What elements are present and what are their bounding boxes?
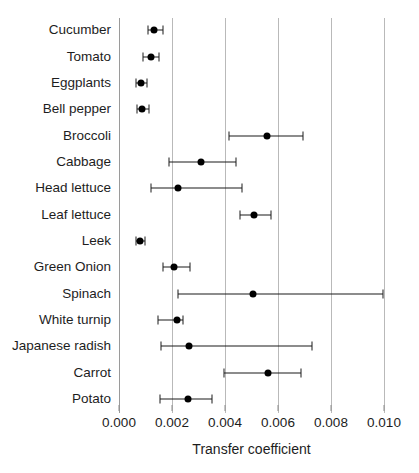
category-label: Green Onion	[34, 260, 111, 274]
data-point	[170, 264, 177, 271]
x-tick-label: 0.010	[367, 416, 401, 430]
error-bar-cap-high	[312, 342, 313, 351]
error-bar-line	[161, 346, 312, 347]
x-tick-label: 0.000	[102, 416, 136, 430]
x-axis: 0.0000.0020.0040.0060.0080.010	[119, 413, 384, 443]
error-bar-cap-high	[147, 78, 148, 87]
forest-plot-figure: CucumberTomatoEggplantsBell pepperBrocco…	[0, 0, 419, 473]
plot-area: CucumberTomatoEggplantsBell pepperBrocco…	[119, 18, 384, 413]
data-point	[250, 290, 257, 297]
error-bar-cap-high	[148, 105, 149, 114]
x-tick-mark	[278, 405, 279, 411]
category-label: Eggplants	[51, 76, 111, 90]
data-point	[250, 211, 257, 218]
data-point	[137, 79, 144, 86]
error-bar-cap-low	[223, 368, 224, 377]
category-label: Leaf lettuce	[41, 208, 111, 222]
category-label: Carrot	[73, 366, 111, 380]
data-point	[175, 185, 182, 192]
x-axis-title: Transfer coefficient	[119, 441, 384, 457]
data-point	[264, 369, 271, 376]
gridline-0.008	[331, 18, 332, 413]
data-point	[263, 132, 270, 139]
error-bar-cap-low	[143, 52, 144, 61]
error-bar-cap-low	[240, 210, 241, 219]
category-label: Japanese radish	[12, 339, 111, 353]
error-bar-cap-low	[157, 315, 158, 324]
x-tick-label: 0.008	[314, 416, 348, 430]
x-tick-label: 0.006	[261, 416, 295, 430]
error-bar-cap-low	[178, 289, 179, 298]
category-label: Cabbage	[56, 155, 111, 169]
error-bar-cap-high	[183, 315, 184, 324]
category-label: Broccoli	[63, 129, 111, 143]
category-label: Spinach	[62, 287, 111, 301]
x-tick-mark	[225, 405, 226, 411]
gridline-0.010	[384, 18, 385, 413]
error-bar-cap-low	[150, 184, 151, 193]
data-point	[198, 158, 205, 165]
category-label: Potato	[72, 392, 111, 406]
x-tick-mark	[384, 405, 385, 411]
x-tick-mark	[331, 405, 332, 411]
category-label: White turnip	[39, 313, 111, 327]
category-label: Leek	[82, 234, 111, 248]
data-point	[136, 237, 143, 244]
error-bar-cap-low	[228, 131, 229, 140]
gridline-0.002	[172, 18, 173, 413]
error-bar-cap-low	[169, 157, 170, 166]
data-point	[150, 27, 157, 34]
error-bar-cap-high	[241, 184, 242, 193]
error-bar-line	[224, 372, 301, 373]
gridline-0.006	[278, 18, 279, 413]
error-bar-cap-high	[190, 263, 191, 272]
data-point	[184, 395, 191, 402]
error-bar-cap-low	[137, 105, 138, 114]
error-bar-line	[178, 293, 383, 294]
error-bar-cap-high	[301, 368, 302, 377]
error-bar-cap-low	[135, 78, 136, 87]
gridline-0.004	[225, 18, 226, 413]
error-bar-cap-low	[162, 263, 163, 272]
x-tick-mark	[119, 405, 120, 411]
data-point	[185, 343, 192, 350]
category-label: Head lettuce	[35, 181, 111, 195]
error-bar-cap-high	[271, 210, 272, 219]
error-bar-cap-low	[160, 342, 161, 351]
data-point	[148, 53, 155, 60]
x-tick-mark	[172, 405, 173, 411]
error-bar-cap-high	[236, 157, 237, 166]
error-bar-cap-high	[382, 289, 383, 298]
error-bar-cap-high	[212, 394, 213, 403]
data-point	[139, 106, 146, 113]
error-bar-cap-high	[302, 131, 303, 140]
error-bar-cap-high	[159, 52, 160, 61]
error-bar-cap-low	[148, 26, 149, 35]
category-label: Cucumber	[49, 23, 111, 37]
x-tick-label: 0.002	[155, 416, 189, 430]
error-bar-cap-high	[144, 236, 145, 245]
error-bar-cap-low	[160, 394, 161, 403]
x-tick-label: 0.004	[208, 416, 242, 430]
error-bar-cap-high	[162, 26, 163, 35]
category-label: Bell pepper	[43, 102, 111, 116]
category-label: Tomato	[67, 50, 111, 64]
error-bar-line	[151, 188, 242, 189]
gridline-0.000	[119, 18, 120, 413]
data-point	[174, 316, 181, 323]
